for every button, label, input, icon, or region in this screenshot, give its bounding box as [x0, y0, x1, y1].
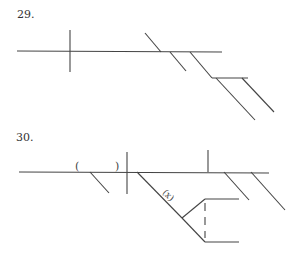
baseline — [19, 172, 269, 173]
modifier-slant — [251, 172, 285, 210]
modifier-slant — [216, 78, 255, 120]
preposition-slant — [190, 52, 212, 78]
open-paren: ( — [75, 160, 79, 173]
diagram-canvas: ( ) (x) — [0, 0, 296, 259]
modifier-slant — [90, 172, 109, 193]
diagram-30: ( ) (x) — [19, 150, 285, 242]
modifier-slant — [224, 172, 249, 200]
upper-branch — [182, 199, 205, 218]
branch-label: (x) — [161, 187, 177, 203]
modifier-slant — [145, 33, 161, 52]
diagram-29 — [17, 30, 274, 120]
close-paren: ) — [115, 160, 119, 173]
modifier-slant — [242, 78, 274, 112]
lower-branch — [182, 218, 205, 242]
modifier-slant — [170, 52, 186, 71]
baseline — [17, 51, 222, 52]
